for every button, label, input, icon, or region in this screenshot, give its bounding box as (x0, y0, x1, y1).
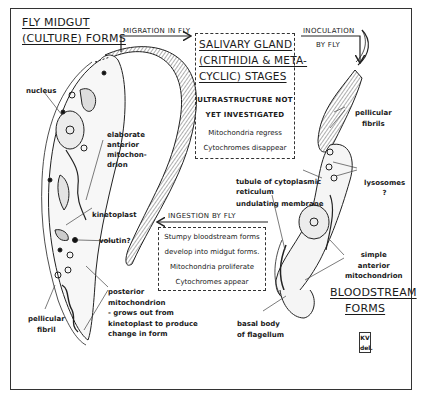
artist-signature: KV del. (359, 332, 371, 353)
migration-label: MIGRATION IN FLY (123, 28, 190, 35)
salivary-gland-box: SALIVARY GLAND (CRITHIDIA & META- CYCLIC… (195, 33, 295, 159)
bloodstream-title-line2: FORMS (345, 303, 385, 314)
ingestion-note: Mitochondria proliferate (159, 263, 265, 271)
label-lysosomes: lysosomes ? (364, 178, 405, 198)
inoculation-label-line1: INOCULATION (303, 28, 355, 35)
salivary-title-line1: SALIVARY GLAND (199, 39, 292, 50)
label-pellicular-fibril: pellicular fibril (28, 314, 65, 335)
label-tubule-cytoplasmic-reticulum: tubule of cytoplasmic reticulum (236, 178, 321, 197)
label-pellicular-fibrils: pellicular fibrils (355, 108, 392, 129)
salivary-note: ULTRASTRUCTURE NOT (196, 96, 294, 104)
label-anterior-mitochondrion: elaborate anterior mitochon- drion (107, 130, 147, 170)
midgut-title-line2: (CULTURE) FORMS (22, 33, 126, 44)
ingestion-note: Stumpy bloodstream forms (159, 233, 265, 241)
ingestion-note: Cytochromes appear (159, 278, 265, 286)
label-undulating-membrane: undulating membrane (236, 201, 324, 208)
ingestion-label: INGESTION BY FLY (168, 213, 236, 220)
label-nucleus: nucleus (26, 88, 56, 95)
label-kinetoplast: kinetoplast (92, 212, 137, 219)
salivary-note: Cytochromes disappear (196, 144, 294, 152)
salivary-title-line2: (CRITHIDIA & META- (199, 55, 307, 66)
salivary-note: YET INVESTIGATED (196, 111, 294, 119)
inoculation-arrow (301, 36, 360, 62)
label-basal-body: basal body of flagellum (237, 319, 284, 341)
ingestion-note: develop into midgut forms. (159, 248, 265, 256)
midgut-title-line1: FLY MIDGUT (22, 17, 90, 28)
label-simple-anterior-mitochondrion: simple anterior mitochondrion (345, 250, 402, 282)
bloodstream-title-line1: BLOODSTREAM (330, 287, 417, 298)
salivary-title-line3: CYCLIC) STAGES (199, 71, 287, 82)
ingestion-box: Stumpy bloodstream forms develop into mi… (158, 227, 266, 291)
salivary-note: Mitochondria regress (196, 129, 294, 137)
label-posterior-mitochondrion: posterior mitochondrion - grows out from… (108, 287, 198, 340)
inoculation-label-line2: BY FLY (316, 42, 340, 49)
label-volutin: volutin? (99, 238, 131, 245)
